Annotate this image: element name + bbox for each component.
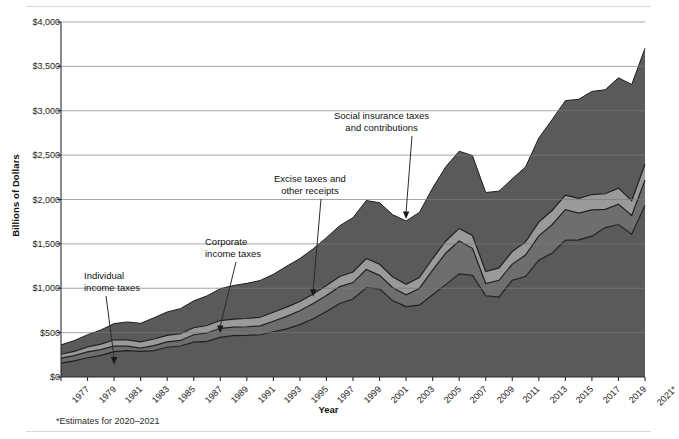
y-tick-label: $1,500 xyxy=(8,239,60,249)
x-axis-title: Year xyxy=(0,404,657,415)
annotation-line: income taxes xyxy=(205,248,261,260)
annotation-line: income taxes xyxy=(84,282,140,294)
chart-footnote: *Estimates for 2020–2021 xyxy=(56,416,160,426)
y-tick-label: $4,000 xyxy=(8,17,60,27)
y-tick-label: $2,500 xyxy=(8,150,60,160)
x-tick-label: 2021* xyxy=(655,384,679,408)
y-tick-label: $500 xyxy=(8,328,60,338)
annotation-line: and contributions xyxy=(334,122,429,134)
y-tick-label: $0 xyxy=(8,372,60,382)
annotation-excise-taxes-other-receipts: Excise taxes andother receipts xyxy=(274,173,346,196)
annotation-leader-line xyxy=(406,136,412,212)
annotation-arrowhead xyxy=(403,212,409,220)
y-tick-label: $2,000 xyxy=(8,195,60,205)
annotation-individual-income-taxes: Individualincome taxes xyxy=(84,270,140,293)
y-tick-label: $3,000 xyxy=(8,106,60,116)
y-axis-ticks: $0$500$1,000$1,500$2,000$2,500$3,000$3,5… xyxy=(0,0,60,439)
annotation-corporate-income-taxes: Corporateincome taxes xyxy=(205,236,261,259)
y-tick-label: $1,000 xyxy=(8,283,60,293)
annotation-line: other receipts xyxy=(274,185,346,197)
top-divider xyxy=(26,6,651,7)
stacked-bands xyxy=(61,48,645,377)
annotation-social-insurance-taxes: Social insurance taxesand contributions xyxy=(334,110,429,133)
annotation-line: Excise taxes and xyxy=(274,173,346,185)
annotation-line: Corporate xyxy=(205,236,261,248)
y-tick-label: $3,500 xyxy=(8,61,60,71)
bottom-divider xyxy=(26,431,651,432)
annotation-line: Social insurance taxes xyxy=(334,110,429,122)
annotation-line: Individual xyxy=(84,270,140,282)
